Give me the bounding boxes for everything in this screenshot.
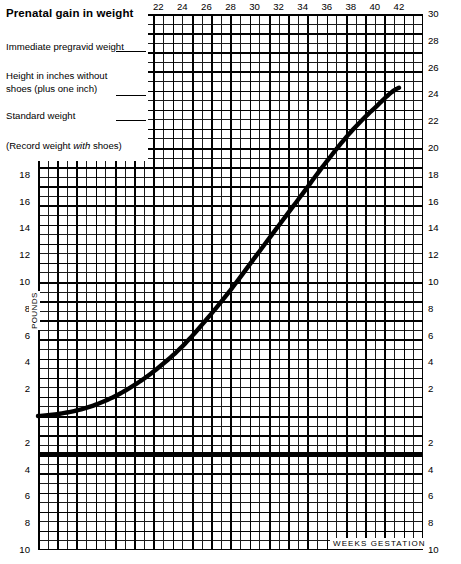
y-tick-label-right: 4 [428,356,452,367]
y-tick-label-right: 6 [428,330,452,341]
y-tick-label-left: 2 [8,437,30,448]
y-axis-title: POUNDS [29,291,40,330]
y-tick-label-right: 10 [428,276,452,287]
x-tick-label: 28 [221,1,241,12]
y-tick-label-left: 6 [8,490,30,501]
x-tick-label: 22 [148,1,168,12]
y-tick-label-right: 20 [428,142,452,153]
y-tick-label-right: 4 [428,464,452,475]
x-tick-label: 32 [269,1,289,12]
y-tick-label-left: 12 [8,249,30,260]
x-tick-label: 42 [389,1,409,12]
x-tick-label: 34 [293,1,313,12]
page-title: Prenatal gain in weight [6,7,134,19]
y-tick-label-left: 16 [8,196,30,207]
x-tick-label: 36 [317,1,337,12]
field-input-pregravid-weight[interactable] [116,51,146,52]
field-input-standard-weight[interactable] [116,120,146,121]
prenatal-weight-gain-chart: Prenatal gain in weight Immediate pregra… [0,0,461,564]
y-tick-label-right: 12 [428,249,452,260]
y-tick-label-left: 4 [8,356,30,367]
y-tick-label-right: 8 [428,303,452,314]
y-tick-label-right: 8 [428,517,452,528]
y-tick-label-left: 2 [8,383,30,394]
y-tick-label-left: 6 [8,330,30,341]
x-tick-label: 38 [341,1,361,12]
x-axis-title: WEEKS GESTATION [330,538,429,549]
y-tick-label-left: 18 [8,169,30,180]
y-tick-label-left: 8 [8,303,30,314]
patient-info-form: Prenatal gain in weight Immediate pregra… [0,0,148,161]
y-tick-label-right: 16 [428,196,452,207]
y-tick-label-right: 24 [428,88,452,99]
x-tick-label: 30 [245,1,265,12]
y-tick-label-right: 2 [428,383,452,394]
x-tick-label: 40 [365,1,385,12]
field-label-pregravid-weight: Immediate pregravid weight [6,41,124,54]
y-tick-label-right: 10 [428,544,452,555]
field-note-record-weight: (Record weight with shoes) [6,140,122,153]
y-tick-label-left: 8 [8,517,30,528]
x-tick-label: 26 [196,1,216,12]
y-tick-label-left: 4 [8,464,30,475]
field-label-standard-weight: Standard weight [6,110,75,123]
field-input-height-inches[interactable] [116,95,146,96]
zero-reference-line [38,452,423,457]
y-tick-label-right: 14 [428,222,452,233]
y-tick-label-right: 30 [428,8,452,19]
y-tick-label-right: 26 [428,62,452,73]
x-tick-label: 24 [172,1,192,12]
y-tick-label-right: 22 [428,115,452,126]
y-tick-label-left: 14 [8,222,30,233]
y-tick-label-right: 6 [428,490,452,501]
y-tick-label-right: 2 [428,437,452,448]
y-tick-label-left: 10 [8,544,30,555]
y-tick-label-right: 28 [428,35,452,46]
y-tick-label-right: 18 [428,169,452,180]
y-tick-label-left: 10 [8,276,30,287]
field-label-height-inches: Height in inches withoutshoes (plus one … [6,70,107,95]
